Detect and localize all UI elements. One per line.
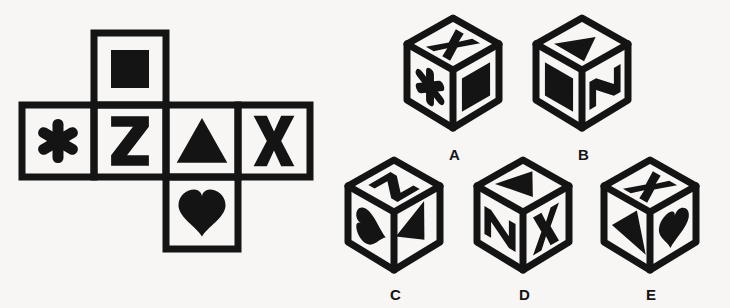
cube-C-top-face-letter-z xyxy=(368,172,419,202)
option-label-A: A xyxy=(449,147,460,162)
cube-B-right-face-letter-z xyxy=(589,64,620,110)
option-cube-C[interactable] xyxy=(348,160,440,270)
cube-D-left-face-letter-z xyxy=(484,206,515,252)
option-label-C: C xyxy=(390,287,401,302)
option-cube-A[interactable] xyxy=(407,18,499,128)
option-cube-B[interactable] xyxy=(536,18,628,128)
answer-cubes-svg xyxy=(0,0,730,308)
puzzle-canvas: A B C D E xyxy=(0,0,730,308)
option-cube-D[interactable] xyxy=(477,160,569,270)
option-label-D: D xyxy=(519,287,530,302)
option-label-E: E xyxy=(646,287,657,302)
option-cube-E[interactable] xyxy=(604,160,696,270)
option-label-B: B xyxy=(578,147,589,162)
